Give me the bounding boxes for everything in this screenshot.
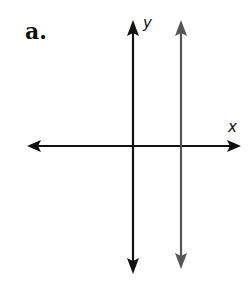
vertical-line	[175, 20, 187, 269]
coordinate-plane	[0, 0, 250, 290]
